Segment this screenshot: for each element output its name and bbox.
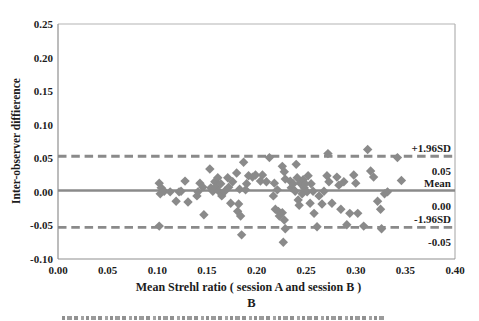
y-tick-label: 0.15 bbox=[34, 85, 54, 97]
y-tick-label: -0.05 bbox=[30, 219, 53, 231]
cropped-caption-fragment bbox=[62, 316, 384, 320]
data-point bbox=[265, 153, 274, 162]
limit-label: Mean bbox=[424, 177, 451, 189]
data-point bbox=[332, 172, 341, 181]
limit-value-label: 0.00 bbox=[432, 200, 452, 212]
x-tick-label: 0.05 bbox=[98, 264, 118, 276]
x-tick-label: 0.00 bbox=[48, 264, 68, 276]
y-tick-label: 0.10 bbox=[34, 119, 54, 131]
limit-label: -1.96SD bbox=[414, 213, 451, 225]
limit-label: +1.96SD bbox=[411, 142, 451, 154]
data-point bbox=[312, 222, 321, 231]
data-point bbox=[351, 178, 360, 187]
x-tick-label: 0.35 bbox=[396, 264, 416, 276]
panel-label: B bbox=[58, 296, 445, 311]
x-tick-label: 0.15 bbox=[197, 264, 217, 276]
data-point bbox=[305, 199, 314, 208]
x-tick-label: 0.25 bbox=[297, 264, 317, 276]
data-point bbox=[242, 179, 251, 188]
data-point bbox=[376, 205, 385, 214]
y-tick-label: 0.00 bbox=[34, 186, 54, 198]
data-point bbox=[309, 209, 318, 218]
x-tick-label: 0.40 bbox=[445, 264, 465, 276]
data-point bbox=[199, 210, 208, 219]
data-point bbox=[239, 158, 248, 167]
data-point bbox=[237, 230, 246, 239]
y-tick-label: 0.05 bbox=[34, 152, 54, 164]
data-point bbox=[292, 160, 301, 169]
data-point bbox=[232, 168, 241, 177]
data-point bbox=[234, 199, 243, 208]
chart-canvas: 0.250.200.150.100.050.00-0.05-0.100.000.… bbox=[0, 0, 479, 321]
data-point bbox=[165, 187, 174, 196]
data-point bbox=[180, 176, 189, 185]
data-point bbox=[205, 164, 214, 173]
data-point bbox=[336, 205, 345, 214]
x-tick-label: 0.30 bbox=[346, 264, 366, 276]
data-point bbox=[281, 224, 290, 233]
data-point bbox=[327, 199, 336, 208]
x-tick-label: 0.20 bbox=[247, 264, 267, 276]
data-point bbox=[377, 224, 386, 233]
limit-value-label: -0.05 bbox=[428, 236, 451, 248]
data-point bbox=[349, 170, 358, 179]
data-point bbox=[171, 197, 180, 206]
limit-value-label: 0.05 bbox=[432, 165, 452, 177]
data-point bbox=[363, 145, 372, 154]
data-point bbox=[393, 153, 402, 162]
data-point bbox=[373, 197, 382, 206]
data-point bbox=[317, 199, 326, 208]
bland-altman-figure: 0.250.200.150.100.050.00-0.05-0.100.000.… bbox=[0, 0, 479, 321]
data-point bbox=[279, 238, 288, 247]
x-axis-title: Mean Strehl ratio ( session A and sessio… bbox=[50, 280, 447, 295]
y-axis-title: Inter-observer diffierence bbox=[10, 78, 22, 204]
x-tick-label: 0.10 bbox=[148, 264, 168, 276]
data-point bbox=[353, 209, 362, 218]
data-point bbox=[226, 199, 235, 208]
data-point bbox=[183, 197, 192, 206]
y-tick-label: 0.20 bbox=[34, 52, 54, 64]
data-point bbox=[155, 221, 164, 230]
y-tick-label: 0.25 bbox=[34, 18, 54, 30]
data-point bbox=[397, 176, 406, 185]
data-point bbox=[359, 221, 368, 230]
